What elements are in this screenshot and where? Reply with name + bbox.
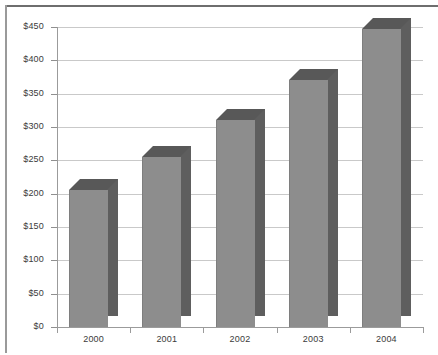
y-axis-label: $450	[0, 21, 44, 31]
x-axis-tick	[423, 328, 424, 333]
bar-2004	[362, 18, 400, 327]
y-axis-label: $200	[0, 188, 44, 198]
bar-front-face	[289, 80, 328, 327]
x-axis-label-2000: 2000	[64, 334, 124, 344]
bar-2003	[289, 69, 327, 327]
bar-side-face	[254, 109, 265, 316]
x-axis-label-2004: 2004	[356, 334, 416, 344]
bar-front-face	[362, 29, 401, 327]
bar-side-face	[180, 146, 191, 316]
bar-side-face	[400, 18, 411, 316]
x-axis-tick	[277, 328, 278, 333]
x-axis-label-2001: 2001	[137, 334, 197, 344]
bar-2000	[69, 179, 107, 327]
y-axis-label: $100	[0, 254, 44, 264]
y-axis-label: $250	[0, 154, 44, 164]
x-axis-tick	[130, 328, 131, 333]
x-axis-tick	[350, 328, 351, 333]
y-axis-label: $0	[0, 321, 44, 331]
x-axis-label-2002: 2002	[210, 334, 270, 344]
bar-front-face	[216, 120, 255, 327]
y-axis-label: $150	[0, 221, 44, 231]
y-axis-label: $50	[0, 288, 44, 298]
bar-chart: $0$50$100$150$200$250$300$350$400$450 20…	[0, 0, 438, 355]
bar-2001	[142, 146, 180, 327]
bar-front-face	[69, 190, 108, 327]
bar-2002	[216, 109, 254, 327]
x-axis-tick	[203, 328, 204, 333]
bar-front-face	[142, 157, 181, 327]
y-axis-line	[57, 27, 58, 328]
x-axis-tick	[57, 328, 58, 333]
y-axis-label: $350	[0, 88, 44, 98]
x-axis-label-2003: 2003	[283, 334, 343, 344]
y-axis-label: $400	[0, 54, 44, 64]
x-axis-line	[57, 327, 424, 328]
bar-side-face	[327, 69, 338, 316]
bar-side-face	[107, 179, 118, 316]
frame-top-border	[6, 5, 438, 7]
y-axis-label: $300	[0, 121, 44, 131]
